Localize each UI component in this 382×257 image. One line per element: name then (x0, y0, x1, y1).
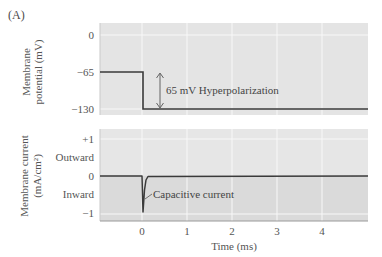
current-plot-area-outward (100, 129, 368, 176)
potential-plot-area (100, 23, 368, 115)
x-tick-0: 0 (139, 225, 145, 237)
x-tick-1: 1 (184, 225, 190, 237)
capacitive-current-label: Capacitive current (153, 188, 234, 200)
y-tick-0mv: 0 (89, 29, 95, 41)
x-tick-2: 2 (229, 225, 235, 237)
inward-label: Inward (63, 188, 95, 200)
hyperpolarization-label: 65 mV Hyperpolarization (166, 84, 279, 96)
y-tick-minus1: −1 (82, 207, 94, 219)
y-tick-130mv: −130 (71, 103, 94, 115)
y-tick-plus1: +1 (82, 133, 94, 145)
x-tick-3: 3 (274, 225, 280, 237)
potential-ylabel-line2: potential (mV) (32, 39, 45, 104)
outward-label: Outward (56, 151, 95, 163)
x-axis-label: Time (ms) (211, 240, 257, 253)
figure-canvas: 65 mV Hyperpolarization 0 −65 −130 Membr… (0, 0, 382, 257)
current-ylabel-line2: (mA/cm²) (31, 154, 44, 198)
y-tick-0: 0 (89, 170, 95, 182)
potential-ylabel-line1: Membrane (20, 48, 32, 96)
current-panel: Capacitive current +1 Outward 0 Inward −… (18, 129, 368, 253)
current-ylabel-line1: Membrane current (18, 135, 30, 217)
potential-panel: 65 mV Hyperpolarization 0 −65 −130 Membr… (20, 23, 368, 115)
y-tick-65mv: −65 (77, 66, 95, 78)
x-tick-4: 4 (319, 225, 325, 237)
